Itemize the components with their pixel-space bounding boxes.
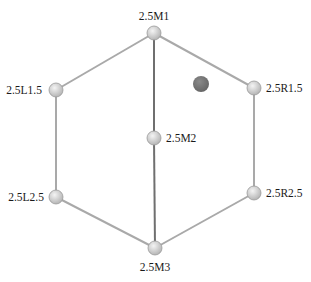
node-label: 2.5R2.5 [266,187,303,199]
node-label: 2.5M2 [166,132,197,144]
node-label: 2.5L2.5 [8,191,44,203]
position-marker-dot [193,76,209,92]
marker-layer [193,76,209,92]
hexagon-graph-diagram: 2.5M12.5L1.52.5R1.52.5M22.5L2.52.5R2.52.… [0,0,311,282]
node-label: 2.5R1.5 [266,82,303,94]
edge-M1-L1.5 [56,33,154,90]
node-circle [49,83,63,97]
edge-R2.5-M3 [155,193,254,248]
node-circle [247,186,261,200]
node-circle [147,131,161,145]
node-circle [49,190,63,204]
node-M1: 2.5M1 [139,10,170,40]
edge-L2.5-M3 [56,197,155,248]
edge-M2-M3 [154,138,155,248]
node-L2-5: 2.5L2.5 [8,190,63,204]
node-label: 2.5M3 [140,261,171,273]
node-L1-5: 2.5L1.5 [6,83,63,97]
node-R2-5: 2.5R2.5 [247,186,303,200]
node-circle [147,26,161,40]
node-circle [148,241,162,255]
node-R1-5: 2.5R1.5 [247,81,303,95]
node-label: 2.5M1 [139,10,170,22]
node-M3: 2.5M3 [140,241,171,273]
node-circle [247,81,261,95]
node-M2: 2.5M2 [147,131,197,145]
node-label: 2.5L1.5 [6,84,42,96]
